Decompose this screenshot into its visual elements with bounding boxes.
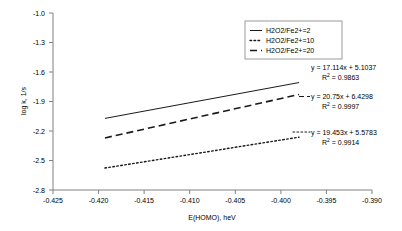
y-tick-marks <box>49 13 53 190</box>
x-tick-label: -0.390 <box>362 197 382 204</box>
equation-label-1: y = 17.114x + 5.1037 <box>311 64 376 72</box>
x-tick-label: -0.395 <box>316 197 336 204</box>
y-tick-label: -1.6 <box>33 69 45 76</box>
equation-annotation-1: y = 17.114x + 5.1037 R2 = 0.9863 <box>311 64 376 81</box>
chart-svg: -1.0 -1.3 -1.6 -1.9 -2.2 -2.5 -2.8 -0.42… <box>0 0 402 231</box>
r2-label-2: R2 = 0.9997 <box>322 101 359 110</box>
y-tick-label: -1.0 <box>33 10 45 17</box>
y-tick-label: -1.3 <box>33 39 45 46</box>
equation-annotation-2: y = 20.75x + 6.4298 R2 = 0.9997 <box>311 93 373 110</box>
r2-label-3: R2 = 0.9914 <box>322 137 359 146</box>
y-tick-label: -1.9 <box>33 98 45 105</box>
series-group <box>105 83 299 169</box>
x-axis-title: E(HOMO), heV <box>188 214 236 222</box>
x-tick-label: -0.425 <box>43 197 63 204</box>
x-tick-label: -0.420 <box>89 197 109 204</box>
legend[interactable]: H2O2/Fe2+=2 H2O2/Fe2+=10 H2O2/Fe2+=20 <box>245 21 342 59</box>
equation-annotation-3: y = 19.453x + 5.5783 R2 = 0.9914 <box>311 129 377 146</box>
chart-container: -1.0 -1.3 -1.6 -1.9 -2.2 -2.5 -2.8 -0.42… <box>0 0 402 231</box>
y-tick-label: -2.8 <box>33 187 45 194</box>
legend-label-2: H2O2/Fe2+=20 <box>266 47 314 54</box>
series-line-h2o2-fe2-10 <box>105 94 299 137</box>
x-tick-label: -0.415 <box>134 197 154 204</box>
r2-label-1: R2 = 0.9863 <box>322 72 359 81</box>
x-tick-label: -0.405 <box>225 197 245 204</box>
equation-label-3: y = 19.453x + 5.5783 <box>311 129 377 137</box>
equation-label-2: y = 20.75x + 6.4298 <box>311 93 373 101</box>
annotation-leaders <box>293 97 310 133</box>
y-tick-label: -2.2 <box>33 128 45 135</box>
y-axis-title: log k, 1/s <box>20 86 28 115</box>
y-tick-label: -2.5 <box>33 157 45 164</box>
x-tick-label: -0.410 <box>180 197 200 204</box>
x-tick-labels: -0.425 -0.420 -0.415 -0.410 -0.405 -0.40… <box>43 197 382 204</box>
legend-label-1: H2O2/Fe2+=10 <box>266 37 314 44</box>
legend-label-0: H2O2/Fe2+=2 <box>266 27 310 34</box>
x-tick-marks <box>53 190 372 194</box>
y-tick-labels: -1.0 -1.3 -1.6 -1.9 -2.2 -2.5 -2.8 <box>33 10 45 194</box>
series-line-h2o2-fe2-20 <box>105 137 299 168</box>
x-tick-label: -0.400 <box>271 197 291 204</box>
